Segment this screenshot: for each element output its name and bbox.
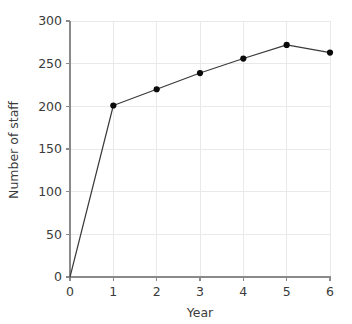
data-point-marker xyxy=(197,70,203,76)
x-tick-label: 4 xyxy=(239,284,247,299)
x-tick-label: 1 xyxy=(109,284,117,299)
data-point-marker xyxy=(327,49,333,55)
data-point-marker xyxy=(240,55,246,61)
y-axis-title: Number of staff xyxy=(6,101,21,199)
y-tick-label: 100 xyxy=(38,184,62,199)
x-tick-label: 5 xyxy=(283,284,291,299)
data-point-marker xyxy=(284,42,290,48)
x-tick-label: 6 xyxy=(326,284,334,299)
y-tick-label: 200 xyxy=(38,99,62,114)
line-chart: 050100150200250300 0123456 Year Number o… xyxy=(0,0,352,324)
x-tick-label: 2 xyxy=(153,284,161,299)
x-tick-label: 0 xyxy=(66,284,74,299)
x-tick-label: 3 xyxy=(196,284,204,299)
y-tick-label: 50 xyxy=(46,227,62,242)
chart-canvas: 050100150200250300 0123456 Year Number o… xyxy=(0,0,352,324)
chart-background xyxy=(0,0,352,324)
data-point-marker xyxy=(110,102,116,108)
data-point-marker xyxy=(154,86,160,92)
x-axis-title: Year xyxy=(186,305,214,320)
y-tick-label: 250 xyxy=(38,56,62,71)
y-tick-label: 150 xyxy=(38,141,62,156)
y-tick-label: 0 xyxy=(54,269,62,284)
y-tick-label: 300 xyxy=(38,13,62,28)
